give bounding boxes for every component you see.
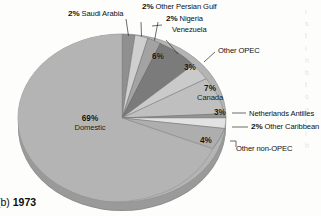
slice-label-other-opec-pct: 3% (184, 63, 196, 72)
callout-other-persian-gulf-pct: 2% (142, 2, 154, 11)
pie-chart-figure: 2% Saudi Arabia 2% Other Persian Gulf 2%… (0, 0, 321, 216)
callout-saudi-arabia-pct: 2% (68, 9, 80, 18)
slice-label-netherlands-antilles-pct: 3% (214, 108, 226, 117)
callout-nigeria: 2% Nigeria (166, 14, 203, 23)
slice-label-canada-pct: 7% (204, 84, 216, 93)
callout-other-persian-gulf-name: Other Persian Gulf (156, 2, 217, 11)
callout-nigeria-name: Nigeria (180, 14, 203, 23)
callout-other-caribbean-pct: 2% (251, 122, 263, 131)
figure-caption: (b) 1973 (0, 196, 36, 208)
adjacent-column-bleed: istihbtoptih (305, 6, 321, 186)
callout-other-persian-gulf: 2% Other Persian Gulf (142, 2, 217, 11)
callout-other-opec-name: Other OPEC (218, 46, 260, 55)
callout-nigeria-pct: 2% (166, 14, 178, 23)
callout-saudi-arabia: 2% Saudi Arabia (68, 9, 123, 18)
slice-label-domestic-name: Domestic (62, 123, 118, 132)
slice-label-canada: 7% Canada (197, 84, 223, 103)
slice-label-canada-name: Canada (197, 93, 223, 102)
pie-chart-graphic (0, 0, 321, 216)
figure-caption-marker: (b) (0, 196, 10, 208)
slice-label-other-non-opec-pct: 4% (200, 136, 212, 145)
callout-venezuela-name: Venezuela (172, 25, 207, 34)
figure-caption-year: 1973 (13, 196, 36, 208)
slice-label-domestic-pct: 69% (82, 114, 98, 123)
slice-label-venezuela-pct: 6% (152, 52, 164, 61)
slice-label-domestic: 69% Domestic (62, 114, 118, 133)
callout-other-non-opec-name: Other non-OPEC (236, 144, 292, 153)
callout-saudi-arabia-name: Saudi Arabia (82, 9, 124, 18)
